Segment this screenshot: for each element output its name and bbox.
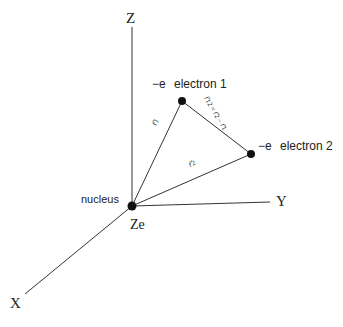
nucleus-charge-label: Ze	[130, 217, 145, 232]
x-axis	[25, 206, 132, 294]
r1-vector-label: r⃗1	[151, 117, 161, 127]
electron1-dot	[178, 97, 186, 105]
y-axis-label: Y	[276, 193, 287, 209]
nucleus-dot	[128, 202, 137, 211]
z-axis-label: Z	[126, 10, 135, 26]
electron2-charge-label: −e	[258, 139, 272, 153]
electron2-dot	[247, 150, 255, 158]
r1-vector-line	[132, 101, 182, 206]
x-axis-label: X	[10, 295, 21, 311]
r2-vector-label: r⃗2	[188, 159, 198, 169]
electron1-label: electron 1	[174, 77, 227, 91]
electron2-label: electron 2	[280, 139, 333, 153]
diagram-canvas: Z Y X nucleus Ze −e electron 1 −e electr…	[0, 0, 343, 327]
electron1-charge-label: −e	[152, 77, 166, 91]
nucleus-label: nucleus	[81, 193, 119, 205]
y-axis	[132, 202, 270, 206]
